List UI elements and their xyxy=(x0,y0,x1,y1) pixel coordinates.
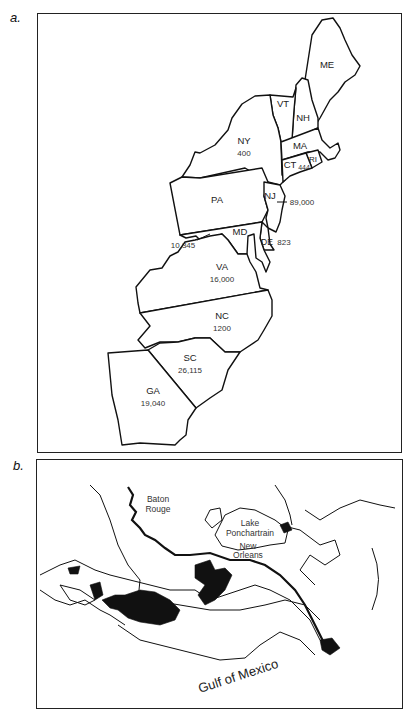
marsh-edge-2 xyxy=(60,585,95,605)
label-new-orleans-line2: Orleans xyxy=(233,550,263,560)
land-loss-area-6 xyxy=(68,566,80,574)
label-lake-line2: Ponchartrain xyxy=(226,528,274,538)
land-loss-area-3 xyxy=(90,582,103,600)
river-northeast xyxy=(275,485,292,525)
label-baton-rouge-line1: Baton xyxy=(147,494,169,504)
label-lake-line1: Lake xyxy=(241,518,260,528)
land-loss-area-4 xyxy=(320,638,340,655)
label-gulf-of-mexico: Gulf of Mexico xyxy=(196,656,280,696)
land-loss-area-2 xyxy=(195,560,232,605)
label-baton-rouge-line2: Rouge xyxy=(145,504,170,514)
coast-east xyxy=(305,500,395,520)
land-loss-area-1 xyxy=(102,590,180,625)
coastline-lower xyxy=(118,625,315,660)
arc-east xyxy=(372,548,379,610)
coast-east-2 xyxy=(280,525,340,585)
panel-b-map: Baton Rouge Lake Ponchartrain New Orlean… xyxy=(0,0,415,717)
